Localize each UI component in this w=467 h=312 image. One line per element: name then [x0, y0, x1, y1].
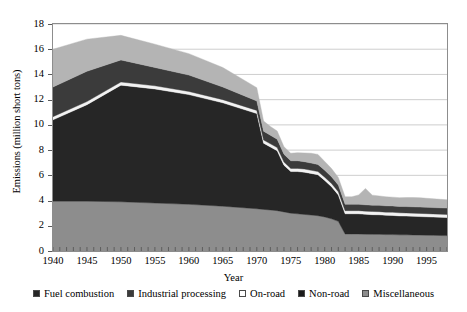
area-series-svg — [53, 24, 447, 251]
legend-item-non-road[interactable]: Non-road — [298, 288, 349, 299]
y-tick-label: 10 — [4, 119, 44, 130]
legend-label: On-road — [250, 288, 285, 299]
plot-area — [52, 23, 448, 252]
legend-swatch-icon — [298, 290, 305, 297]
y-tick-label: 14 — [4, 69, 44, 80]
legend-item-on-road[interactable]: On-road — [239, 288, 285, 299]
legend-swatch-icon — [239, 290, 246, 297]
legend-swatch-icon — [127, 290, 134, 297]
legend-label: Industrial processing — [138, 288, 226, 299]
x-tick-label: 1995 — [407, 256, 447, 267]
y-tick-label: 18 — [4, 19, 44, 30]
legend-item-miscellaneous[interactable]: Miscellaneous — [362, 288, 434, 299]
legend-item-fuel-combustion[interactable]: Fuel combustion — [33, 288, 114, 299]
y-tick-label: 2 — [4, 220, 44, 231]
chart-legend: Fuel combustionIndustrial processingOn-r… — [0, 288, 467, 299]
y-tick-label: 12 — [4, 94, 44, 105]
legend-item-industrial-processing[interactable]: Industrial processing — [127, 288, 226, 299]
y-tick-label: 8 — [4, 145, 44, 156]
legend-label: Non-road — [309, 288, 349, 299]
y-tick-label: 4 — [4, 195, 44, 206]
legend-label: Fuel combustion — [44, 288, 114, 299]
stacked-area-chart: Emissions (million short tons) 024681012… — [0, 0, 467, 312]
x-axis-title: Year — [0, 272, 467, 283]
y-tick-label: 6 — [4, 170, 44, 181]
legend-label: Miscellaneous — [373, 288, 434, 299]
legend-swatch-icon — [362, 290, 369, 297]
legend-swatch-icon — [33, 290, 40, 297]
y-tick-label: 16 — [4, 44, 44, 55]
y-tick-label: 0 — [4, 246, 44, 257]
